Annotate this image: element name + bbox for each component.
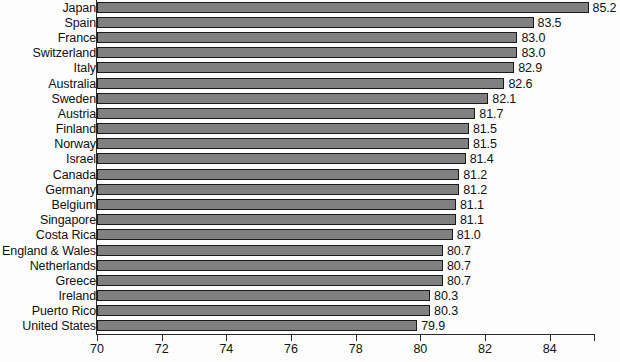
x-tick-label: 78 xyxy=(349,342,363,356)
bar xyxy=(97,290,430,301)
bar xyxy=(97,138,469,149)
bar xyxy=(97,47,517,58)
category-label: Spain xyxy=(65,16,96,29)
x-tick-label: 80 xyxy=(413,342,427,356)
category-label: Costa Rica xyxy=(36,229,96,242)
bar-value-label: 81.0 xyxy=(457,229,481,242)
chart-row: Japan85.2 xyxy=(0,0,620,15)
bar xyxy=(97,275,443,286)
bar-value-label: 83.0 xyxy=(521,47,545,60)
bar xyxy=(97,169,459,180)
chart-row: Ireland80.3 xyxy=(0,288,620,303)
category-label: Switzerland xyxy=(32,47,96,60)
bar-value-label: 81.2 xyxy=(463,183,487,196)
y-axis-line xyxy=(96,0,97,335)
x-tick-mark xyxy=(356,335,357,341)
bar-value-label: 83.0 xyxy=(521,32,545,45)
bar xyxy=(97,62,514,73)
x-tick-label: 72 xyxy=(155,342,169,356)
x-tick-mark xyxy=(97,335,98,341)
chart-row: Singapore81.1 xyxy=(0,213,620,228)
chart-row: Sweden82.1 xyxy=(0,91,620,106)
x-tick-label: 74 xyxy=(219,342,233,356)
bar xyxy=(97,320,417,331)
bar xyxy=(97,229,453,240)
bar xyxy=(97,214,456,225)
bar xyxy=(97,123,469,134)
bar-value-label: 81.7 xyxy=(479,107,503,120)
chart-plot-area: Japan85.2Spain83.5France83.0Switzerland8… xyxy=(0,0,620,334)
bar-value-label: 80.7 xyxy=(447,244,471,257)
bar-value-label: 80.7 xyxy=(447,274,471,287)
bar xyxy=(97,199,456,210)
chart-row: Greece80.7 xyxy=(0,273,620,288)
chart-row: Germany81.2 xyxy=(0,182,620,197)
bar xyxy=(97,184,459,195)
bar xyxy=(97,93,488,104)
x-tick-label: 70 xyxy=(90,342,104,356)
bar xyxy=(97,245,443,256)
bar xyxy=(97,2,589,13)
chart-row: Costa Rica81.0 xyxy=(0,228,620,243)
bar xyxy=(97,305,430,316)
chart-row: United States79.9 xyxy=(0,319,620,334)
bar xyxy=(97,17,534,28)
bar-value-label: 81.5 xyxy=(473,123,497,136)
category-label: Greece xyxy=(56,274,96,287)
category-label: Canada xyxy=(53,168,96,181)
chart-row: Belgium81.1 xyxy=(0,197,620,212)
chart-row: Netherlands80.7 xyxy=(0,258,620,273)
chart-row: Australia82.6 xyxy=(0,76,620,91)
category-label: Netherlands xyxy=(30,259,96,272)
category-label: Israel xyxy=(66,153,96,166)
bar-value-label: 81.2 xyxy=(463,168,487,181)
bar xyxy=(97,78,504,89)
category-label: Ireland xyxy=(58,290,96,303)
chart-row: Spain83.5 xyxy=(0,15,620,30)
x-axis-line xyxy=(96,334,595,335)
bar xyxy=(97,260,443,271)
x-axis-end-cap xyxy=(594,335,595,341)
bar-value-label: 82.6 xyxy=(508,77,532,90)
chart-row: Finland81.5 xyxy=(0,121,620,136)
bar-value-label: 82.1 xyxy=(492,92,516,105)
category-label: England & Wales xyxy=(2,244,96,257)
bar-value-label: 81.1 xyxy=(460,199,484,212)
category-label: Japan xyxy=(62,1,96,14)
chart-row: France83.0 xyxy=(0,30,620,45)
category-label: Belgium xyxy=(52,199,96,212)
x-tick-label: 76 xyxy=(284,342,298,356)
category-label: Australia xyxy=(48,77,96,90)
x-tick-label: 84 xyxy=(543,342,557,356)
bar-value-label: 81.4 xyxy=(470,153,494,166)
bar xyxy=(97,108,475,119)
bar xyxy=(97,32,517,43)
chart-row: Italy82.9 xyxy=(0,61,620,76)
x-tick-mark xyxy=(291,335,292,341)
bar-value-label: 81.5 xyxy=(473,138,497,151)
bar-value-label: 82.9 xyxy=(518,62,542,75)
x-tick-mark xyxy=(420,335,421,341)
x-tick-mark xyxy=(550,335,551,341)
category-label: Germany xyxy=(45,183,96,196)
bar-value-label: 80.7 xyxy=(447,259,471,272)
chart-row: England & Wales80.7 xyxy=(0,243,620,258)
bar-value-label: 79.9 xyxy=(421,320,445,333)
chart-row: Israel81.4 xyxy=(0,152,620,167)
bar xyxy=(97,153,466,164)
chart-row: Norway81.5 xyxy=(0,137,620,152)
bar-value-label: 85.2 xyxy=(593,1,617,14)
category-label: France xyxy=(58,32,96,45)
x-tick-label: 82 xyxy=(478,342,492,356)
bar-value-label: 83.5 xyxy=(538,16,562,29)
bar-value-label: 80.3 xyxy=(434,305,458,318)
chart-row: Canada81.2 xyxy=(0,167,620,182)
category-label: Norway xyxy=(54,138,96,151)
category-label: United States xyxy=(22,320,96,333)
x-tick-mark xyxy=(162,335,163,341)
category-label: Austria xyxy=(58,107,96,120)
category-label: Singapore xyxy=(40,214,96,227)
x-tick-mark xyxy=(485,335,486,341)
category-label: Puerto Rico xyxy=(32,305,96,318)
chart-row: Puerto Rico80.3 xyxy=(0,304,620,319)
